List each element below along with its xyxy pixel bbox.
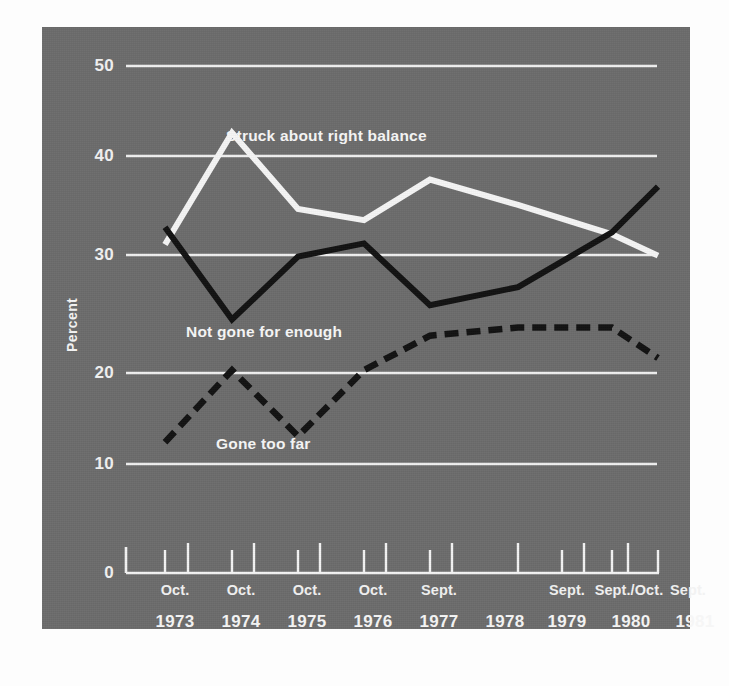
series-line-struck-about-right-balance [165, 133, 658, 256]
y-tick-50: 50 [80, 56, 114, 76]
x-year-1981: 1981 [662, 612, 728, 632]
x-axis-ticks [165, 543, 658, 573]
y-tick-0: 0 [80, 563, 114, 583]
y-tick-40: 40 [80, 146, 114, 166]
x-year-1973: 1973 [142, 612, 208, 632]
x-month-1974: Oct. [208, 582, 274, 598]
y-axis-title: Percent [64, 298, 80, 352]
x-year-1974: 1974 [208, 612, 274, 632]
series-label-not-gone-for-enough: Not gone for enough [186, 323, 342, 341]
x-year-1979: 1979 [534, 612, 600, 632]
y-tick-10: 10 [80, 454, 114, 474]
y-tick-30: 30 [80, 245, 114, 265]
x-year-1980: 1980 [598, 612, 664, 632]
line-chart-plot [42, 27, 690, 629]
chart-page: g [0, 0, 729, 686]
axes [126, 547, 659, 573]
x-year-1977: 1977 [406, 612, 472, 632]
chart-panel: 50 40 30 20 10 0 Percent Oct. Oct. Oct. … [42, 27, 690, 629]
series-line-not-gone-for-enough [165, 187, 658, 320]
x-month-1976: Oct. [340, 582, 406, 598]
series-line-gone-too-far [165, 328, 658, 443]
x-month-1973: Oct. [142, 582, 208, 598]
x-month-1981: Sept. [660, 582, 716, 598]
x-year-1976: 1976 [340, 612, 406, 632]
x-month-1975: Oct. [274, 582, 340, 598]
x-year-1978: 1978 [472, 612, 538, 632]
y-tick-20: 20 [80, 363, 114, 383]
series-label-gone-too-far: Gone too far [216, 435, 311, 453]
x-month-1977: Sept. [406, 582, 472, 598]
series-label-struck-about-right-balance: Struck about right balance [226, 127, 427, 145]
x-year-1975: 1975 [274, 612, 340, 632]
series-layer [165, 133, 658, 442]
gridlines [126, 66, 657, 464]
